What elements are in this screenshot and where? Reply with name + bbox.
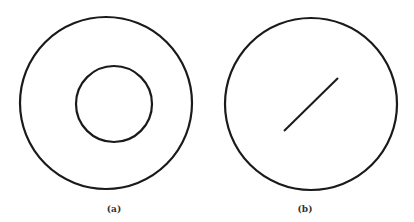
panel-a: (a) xyxy=(20,17,192,214)
panel-a-inner-circle xyxy=(76,66,152,142)
figure-canvas: (a) (b) xyxy=(0,0,414,222)
panel-a-outer-circle xyxy=(20,17,192,189)
panel-b: (b) xyxy=(225,18,397,214)
panel-b-line-segment xyxy=(284,78,338,131)
panel-b-label: (b) xyxy=(298,204,313,214)
panel-a-label: (a) xyxy=(107,204,121,214)
